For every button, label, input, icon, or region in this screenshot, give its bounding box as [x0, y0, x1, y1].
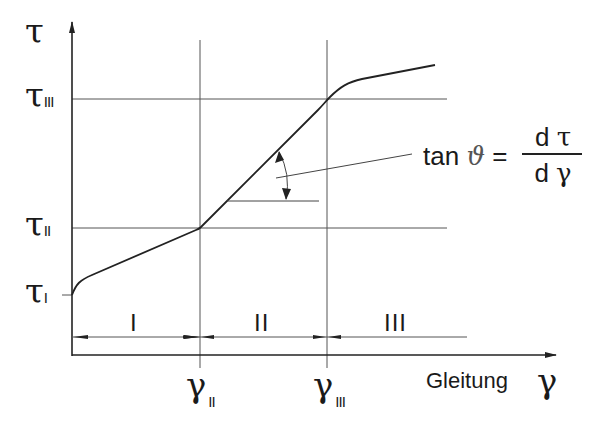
region-I-label: I — [130, 311, 138, 335]
x-axis-name: Gleitung — [426, 370, 508, 392]
formula-lhs: tan ϑ = — [423, 143, 507, 169]
slope-annotation — [227, 152, 412, 201]
fraction-bar — [522, 153, 582, 155]
y-axis-symbol: τ — [25, 14, 44, 48]
formula-leader-line — [276, 154, 412, 178]
formula-denominator: d γ — [522, 160, 584, 186]
x-axis-symbol: γ — [537, 364, 557, 398]
tau-II-label: τII — [25, 207, 50, 241]
tau-I-label: τI — [25, 274, 47, 308]
region-II-label: II — [254, 311, 269, 335]
gamma-III-label: γIII — [313, 368, 343, 402]
gamma-II-label: γII — [186, 368, 213, 402]
diagram-canvas — [0, 0, 591, 423]
formula-numerator: d τ — [522, 124, 584, 150]
angle-arrow-down-icon — [282, 188, 291, 200]
region-III-label: III — [384, 311, 407, 335]
tau-III-label: τIII — [25, 78, 53, 112]
